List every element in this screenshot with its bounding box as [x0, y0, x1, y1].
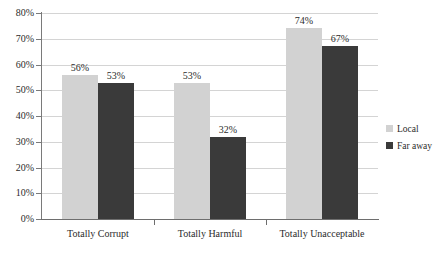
bar-value-label: 74%	[286, 15, 322, 26]
bar-far-away-1	[210, 137, 246, 219]
legend-swatch-icon	[386, 142, 393, 149]
y-tick-label: 0%	[0, 214, 34, 224]
bar-far-away-0	[98, 83, 134, 219]
category-label: Totally Corrupt	[42, 228, 154, 240]
bar-local-2	[286, 28, 322, 219]
legend-swatch-icon	[386, 125, 393, 132]
y-tick-label: 30%	[0, 137, 34, 147]
bar-far-away-2	[322, 46, 358, 219]
bar-local-1	[174, 83, 210, 219]
y-axis-line	[41, 12, 42, 220]
legend-item-faraway: Far away	[386, 137, 442, 154]
y-tick-label: 20%	[0, 163, 34, 173]
legend-item-local: Local	[386, 120, 442, 137]
y-tick-label: 60%	[0, 60, 34, 70]
bar-local-0	[62, 75, 98, 219]
y-tick-label: 70%	[0, 34, 34, 44]
x-axis-line	[41, 219, 379, 220]
legend-label: Far away	[397, 141, 432, 151]
y-tick-label: 40%	[0, 111, 34, 121]
chart-legend: LocalFar away	[386, 120, 442, 154]
category-label: Totally Harmful	[154, 228, 266, 240]
bar-value-label: 56%	[62, 62, 98, 73]
x-tick-mark	[154, 220, 155, 225]
y-tick-label: 10%	[0, 188, 34, 198]
bar-value-label: 53%	[98, 70, 134, 81]
x-tick-mark	[266, 220, 267, 225]
bar-chart: 0%10%20%30%40%50%60%70%80% 56%53%53%32%7…	[0, 0, 442, 256]
bar-value-label: 67%	[322, 33, 358, 44]
y-tick-label: 50%	[0, 85, 34, 95]
bar-value-label: 53%	[174, 70, 210, 81]
bar-value-label: 32%	[210, 124, 246, 135]
gridline	[42, 13, 378, 14]
legend-label: Local	[397, 124, 419, 134]
category-label: Totally Unacceptable	[266, 228, 378, 240]
y-tick-label: 80%	[0, 8, 34, 18]
